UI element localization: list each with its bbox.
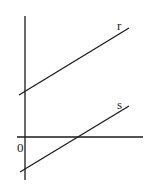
- origin-label: 0: [17, 140, 24, 155]
- coordinate-diagram: 0 r s: [0, 0, 148, 188]
- line-s: [20, 106, 129, 172]
- line-r: [19, 28, 129, 95]
- line-s-label: s: [117, 97, 122, 112]
- line-r-label: r: [117, 18, 122, 33]
